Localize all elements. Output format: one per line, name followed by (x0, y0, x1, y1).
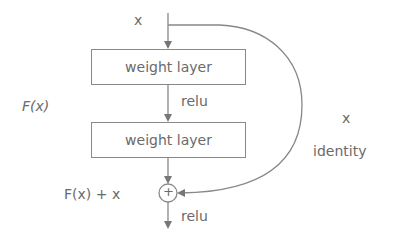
input-x-label: x (134, 12, 142, 28)
residual-function-label: F(x) (22, 98, 49, 114)
residual-block-diagram: + x weight layer relu weight layer F(x) … (0, 0, 399, 242)
weight-layer-1-label: weight layer (125, 59, 212, 75)
sum-label: F(x) + x (64, 186, 120, 202)
add-symbol: + (163, 184, 174, 199)
identity-label: identity (313, 143, 366, 159)
shortcut-x-label: x (342, 110, 350, 126)
relu-label-middle: relu (181, 93, 208, 109)
relu-label-output: relu (181, 208, 208, 224)
weight-layer-2: weight layer (91, 122, 246, 158)
weight-layer-2-label: weight layer (125, 132, 212, 148)
weight-layer-1: weight layer (91, 49, 246, 85)
connector-lines (0, 0, 399, 242)
